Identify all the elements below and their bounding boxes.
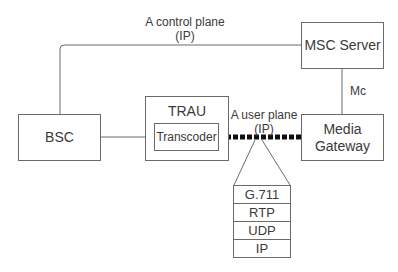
stack-callout-right — [262, 140, 290, 185]
bsc-node: BSC — [18, 114, 101, 161]
control-plane-label-line2: (IP) — [130, 29, 240, 43]
media-gateway-node: Media Gateway — [301, 114, 384, 161]
transcoder-node: Transcoder — [154, 123, 219, 151]
user-plane-label-line1: A user plane — [230, 108, 298, 122]
user-plane-label: A user plane (IP) — [230, 108, 298, 136]
bsc-label: BSC — [45, 129, 74, 146]
media-gateway-label: Media Gateway — [313, 121, 373, 155]
trau-label: TRAU — [168, 103, 206, 120]
control-plane-label: A control plane (IP) — [130, 15, 240, 43]
msc-server-node: MSC Server — [301, 22, 384, 69]
mc-label-text: Mc — [350, 84, 366, 98]
stack-layer-rtp: RTP — [234, 204, 290, 222]
user-plane-label-line2: (IP) — [230, 122, 298, 136]
transcoder-label: Transcoder — [156, 129, 216, 146]
stack-layer-ip: IP — [234, 240, 290, 258]
control-plane-label-line1: A control plane — [130, 15, 240, 29]
mc-label: Mc — [346, 84, 370, 98]
protocol-stack: G.711 RTP UDP IP — [233, 185, 291, 258]
msc-server-label: MSC Server — [304, 37, 380, 54]
stack-layer-udp: UDP — [234, 222, 290, 240]
stack-callout-left — [234, 140, 255, 185]
stack-layer-g711: G.711 — [234, 186, 290, 204]
